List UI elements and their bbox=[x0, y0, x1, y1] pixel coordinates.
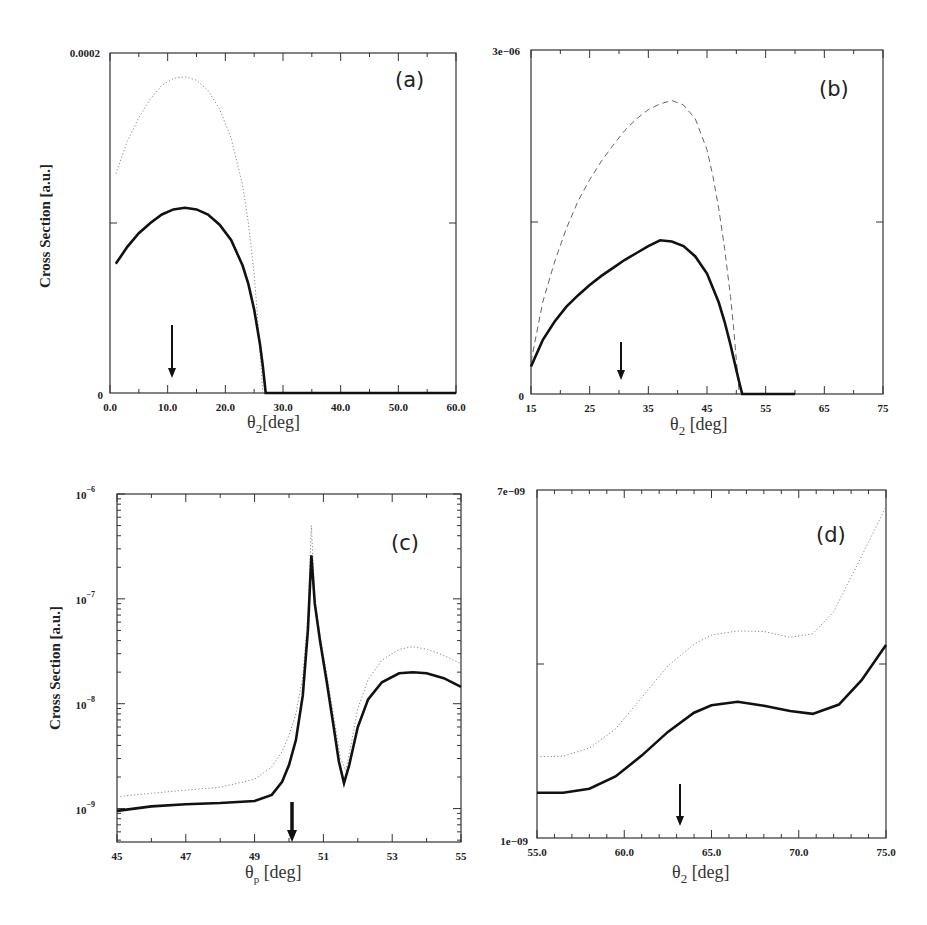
x-axis-label-d: θ2 [deg] bbox=[672, 862, 730, 886]
x-tick-label: 75.0 bbox=[876, 846, 896, 858]
x-tick-labels-d: 55.060.065.070.075.0 bbox=[527, 846, 896, 858]
solid-curve-d bbox=[537, 645, 886, 793]
panel-tag-d: (d) bbox=[816, 523, 846, 547]
x-tick-label: 70.0 bbox=[789, 846, 809, 858]
x-tick-label: 65.0 bbox=[702, 846, 722, 858]
x-tick-label: 55.0 bbox=[527, 846, 547, 858]
x-tick-label: 60.0 bbox=[615, 846, 635, 858]
y-tick-bottom-d: 1e−09 bbox=[500, 835, 528, 847]
panel-d: 7e−09 1e−09 55.060.065.070.075.0 θ2 [deg… bbox=[0, 0, 927, 925]
arrow-icon-d bbox=[676, 784, 684, 826]
y-tick-top-d: 7e−09 bbox=[497, 485, 525, 497]
curves-d bbox=[537, 507, 886, 793]
